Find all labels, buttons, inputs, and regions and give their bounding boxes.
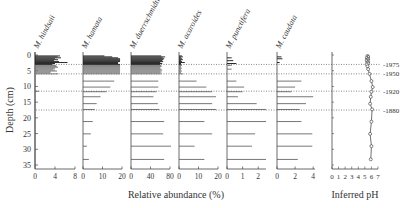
ph-tick-label: 3: [350, 173, 354, 181]
abundance-bar: [131, 55, 161, 56]
date-marker-label: -1920: [383, 88, 400, 96]
taxa-panels: 048M. hindsaii01020M. hamata04080M. duer…: [31, 0, 315, 181]
abundance-bar: [131, 109, 159, 110]
abundance-bar: [179, 58, 182, 59]
ph-tick-label: 7: [376, 173, 380, 181]
abundance-bar: [227, 57, 232, 58]
abundance-bar: [35, 67, 58, 68]
ph-tick-label: 6: [370, 173, 374, 181]
ph-point: [367, 68, 370, 71]
x-tick-label: 20: [118, 172, 126, 181]
abundance-bar: [35, 56, 58, 57]
x-tick-label: 0: [225, 172, 229, 181]
abundance-bar: [131, 71, 160, 72]
abundance-bar: [35, 68, 55, 69]
abundance-bar: [131, 81, 158, 82]
abundance-bar: [179, 103, 212, 104]
taxon-name: M. caudata: [273, 14, 299, 51]
abundance-bar: [83, 55, 104, 56]
abundance-bar: [277, 133, 312, 134]
abundance-bar: [131, 121, 164, 122]
abundance-bar: [35, 72, 50, 73]
ph-tick-label: 5: [363, 173, 367, 181]
abundance-bar: [131, 60, 162, 61]
depth-tick-label: 0: [27, 51, 31, 60]
abundance-bar: [35, 57, 61, 58]
abundance-bar: [131, 133, 163, 134]
ph-point: [370, 145, 373, 148]
ph-point: [366, 65, 369, 68]
panel-m--duerrschmidtiae: 04080M. duerrschmidtiae: [127, 0, 174, 181]
abundance-bar: [131, 67, 160, 68]
abundance-bar: [179, 56, 183, 57]
ph-tick-label: 0: [330, 173, 334, 181]
ph-axis-label: Inferred pH: [332, 189, 379, 200]
abundance-bar: [83, 71, 120, 72]
depth-tick-label: 10: [23, 82, 31, 91]
date-marker-label: -1975: [383, 61, 400, 69]
abundance-bar: [83, 96, 101, 97]
abundance-bar: [277, 96, 313, 97]
taxon-name: M. duerrschmidtiae: [127, 0, 165, 51]
abundance-bar: [131, 61, 163, 62]
x-tick-label: 20: [214, 172, 222, 181]
abundance-bar: [83, 71, 120, 72]
abundance-bar: [179, 64, 181, 65]
abundance-bar: [131, 59, 163, 60]
abundance-bar: [83, 109, 95, 110]
x-tick-label: 10: [99, 172, 107, 181]
x-tick-label: 0: [177, 172, 181, 181]
depth-tick-label: 15: [23, 98, 31, 107]
abundance-bar: [83, 87, 110, 88]
x-tick-label: 80: [166, 172, 174, 181]
abundance-bar: [227, 96, 238, 97]
abundance-bar: [179, 57, 181, 58]
taxon-name: M. acaroides: [175, 9, 203, 51]
abundance-bar: [35, 70, 55, 71]
date-marker-label: -1950: [383, 70, 400, 78]
abundance-bar: [179, 87, 206, 88]
abundance-bar: [277, 62, 280, 63]
ph-point: [371, 108, 374, 111]
abundance-bar: [83, 81, 114, 82]
abundance-bar: [35, 66, 57, 67]
abundance-bar: [179, 55, 182, 56]
panel-m--hindsaii: 048M. hindsaii: [31, 14, 77, 181]
abundance-bar: [83, 64, 120, 65]
abundance-bar: [131, 146, 171, 147]
abundance-bar: [179, 81, 197, 82]
abundance-bar: [35, 73, 58, 74]
abundance-bar: [131, 72, 160, 73]
abundance-bar: [179, 73, 183, 74]
abundance-bar: [131, 96, 153, 97]
abundance-bar: [227, 159, 266, 160]
ph-point: [369, 158, 372, 161]
abundance-bar: [83, 103, 97, 104]
abundance-bar: [179, 67, 181, 68]
date-marker-label: -1880: [383, 107, 400, 115]
abundance-bar: [227, 60, 233, 61]
depth-tick-label: 5: [27, 67, 31, 76]
abundance-bar: [179, 91, 212, 92]
abundance-bar: [35, 71, 51, 72]
abundance-bar: [227, 121, 266, 122]
abundance-bar: [83, 65, 120, 66]
depth-tick-label: 20: [23, 114, 31, 123]
ph-panel: 01234567: [330, 52, 380, 181]
abundance-bar: [277, 81, 301, 82]
abundance-bar: [131, 91, 156, 92]
abundance-bar: [83, 159, 89, 160]
abundance-bar: [179, 121, 204, 122]
abundance-bar: [35, 63, 55, 64]
taxon-name: M. punctifera: [223, 7, 252, 51]
abundance-bar: [131, 57, 163, 58]
abundance-bar: [131, 159, 164, 160]
x-tick-label: 8: [73, 172, 77, 181]
abundance-bar: [179, 60, 181, 61]
panel-m--punctifera: 012M. punctifera: [223, 7, 266, 181]
abundance-bar: [35, 59, 58, 60]
abundance-bar: [83, 61, 120, 62]
ph-point: [370, 80, 373, 83]
ph-tick-label: 1: [337, 173, 341, 181]
abundance-bar: [83, 73, 120, 74]
